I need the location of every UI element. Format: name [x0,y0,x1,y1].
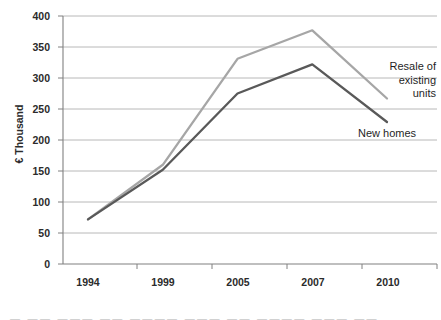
x-tick-label-2010: 2010 [362,276,414,288]
y-tick-label-50: 50 [16,227,50,239]
chart-plot-area [0,0,441,320]
series-label-resale-line1: Resale of [366,60,436,74]
x-tick-label-1999: 1999 [137,276,189,288]
x-tick-label-1994: 1994 [62,276,114,288]
y-tick-label-400: 400 [16,10,50,22]
x-tick-label-2007: 2007 [287,276,339,288]
line-chart: € Thousand 400 350 300 250 200 150 100 5… [0,0,441,320]
y-tick-label-0: 0 [16,258,50,270]
gridlines [63,16,437,233]
series-label-new-homes: New homes [358,127,438,141]
y-tick-label-200: 200 [16,134,50,146]
series-label-resale-line3: units [366,87,436,101]
series-label-resale-line2: existing [366,74,436,88]
y-tick-label-250: 250 [16,103,50,115]
y-tick-label-100: 100 [16,196,50,208]
cropped-caption-row: — —— ——— —— ———— ——— —— ———— ——— —— [0,313,441,320]
y-tick-label-300: 300 [16,72,50,84]
x-tick-label-2005: 2005 [212,276,264,288]
x-tick-marks [137,264,437,269]
y-tick-label-150: 150 [16,165,50,177]
y-tick-label-350: 350 [16,41,50,53]
series-line-new-homes [88,64,387,219]
y-tick-marks [58,16,63,264]
series-label-resale: Resale of existing units [366,60,436,101]
